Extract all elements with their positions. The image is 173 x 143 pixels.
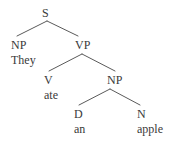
node-s: S (42, 7, 49, 19)
word-apple: apple (137, 123, 163, 135)
node-np-object: NP (107, 74, 122, 86)
edge-s-vp (47, 21, 78, 36)
word-ate: ate (44, 89, 58, 101)
edge-vp-np (82, 54, 115, 71)
node-d: D (74, 108, 83, 120)
edge-vp-v (49, 54, 82, 71)
node-vp: VP (75, 39, 90, 51)
node-v: V (44, 74, 53, 86)
node-np-subject: NP (11, 39, 26, 51)
syntax-tree: S NP VP V NP D N They ate an apple (0, 0, 173, 143)
word-they: They (11, 54, 36, 66)
node-n: N (137, 108, 146, 120)
word-an: an (74, 123, 85, 135)
edge-s-np (17, 21, 47, 36)
edge-np-n (110, 89, 140, 105)
edge-np-d (79, 89, 110, 105)
